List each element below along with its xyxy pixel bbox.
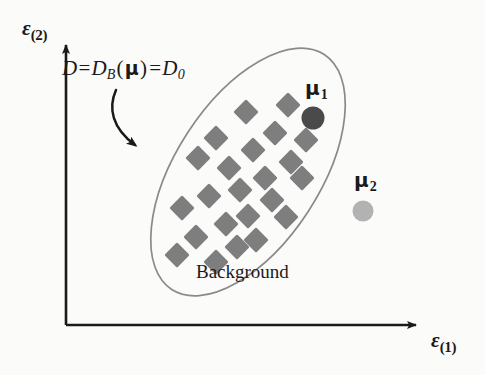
scatter-diamond	[259, 187, 284, 212]
scatter-diamond	[273, 204, 298, 229]
formula-func-subscript: B	[107, 67, 116, 82]
mu1-symbol: μ	[305, 76, 320, 100]
scatter-diamond-group	[164, 92, 318, 274]
formula-paren-open: (	[116, 56, 125, 80]
formula-lhs: D	[62, 56, 77, 80]
formula-paren-close: )	[139, 56, 148, 80]
annotation-arrow	[112, 90, 135, 145]
x-axis-label: ε(1)	[431, 330, 456, 355]
y-axis-label: ε(2)	[22, 18, 47, 43]
scatter-diamond	[164, 242, 189, 267]
scatter-diamond	[235, 203, 260, 228]
scatter-diamond	[185, 145, 210, 170]
scatter-diamond	[262, 120, 287, 145]
mu1-subscript: 1	[320, 87, 328, 102]
scatter-diamond	[275, 92, 300, 117]
formula-equals-2: =	[148, 56, 162, 80]
scatter-diamond	[227, 177, 252, 202]
mu2-symbol: μ	[354, 168, 369, 192]
scatter-diamond	[233, 99, 258, 124]
figure-canvas: ε(2) ε(1) D=DB(μ)=D0 μ1 μ2 Background	[0, 0, 485, 375]
scatter-diamond	[213, 211, 238, 236]
scatter-diamond	[240, 137, 265, 162]
scatter-diamond	[293, 127, 318, 152]
mu1-marker-dot	[302, 107, 325, 130]
formula-equals-1: =	[77, 56, 91, 80]
formula-rhs-subscript: 0	[178, 67, 185, 82]
formula-mu-symbol: μ	[125, 57, 139, 79]
scatter-diamond	[216, 155, 241, 180]
background-region-label: Background	[196, 262, 289, 281]
scatter-diamond	[183, 224, 208, 249]
x-axis-symbol: ε	[431, 328, 440, 352]
mu1-label: μ1	[305, 78, 328, 102]
mu2-subscript: 2	[369, 179, 377, 194]
scatter-diamond	[196, 183, 221, 208]
scatter-diamond	[169, 195, 194, 220]
x-axis-subscript: (1)	[440, 339, 457, 355]
formula-func: D	[91, 56, 106, 80]
distance-formula-annotation: D=DB(μ)=D0	[62, 58, 185, 82]
mu2-marker-dot	[353, 201, 374, 222]
scatter-diamond	[252, 165, 277, 190]
formula-rhs: D	[162, 56, 177, 80]
y-axis-subscript: (2)	[31, 27, 48, 43]
scatter-diamond	[203, 125, 228, 150]
mu2-label: μ2	[354, 170, 377, 194]
y-axis-symbol: ε	[22, 16, 31, 40]
